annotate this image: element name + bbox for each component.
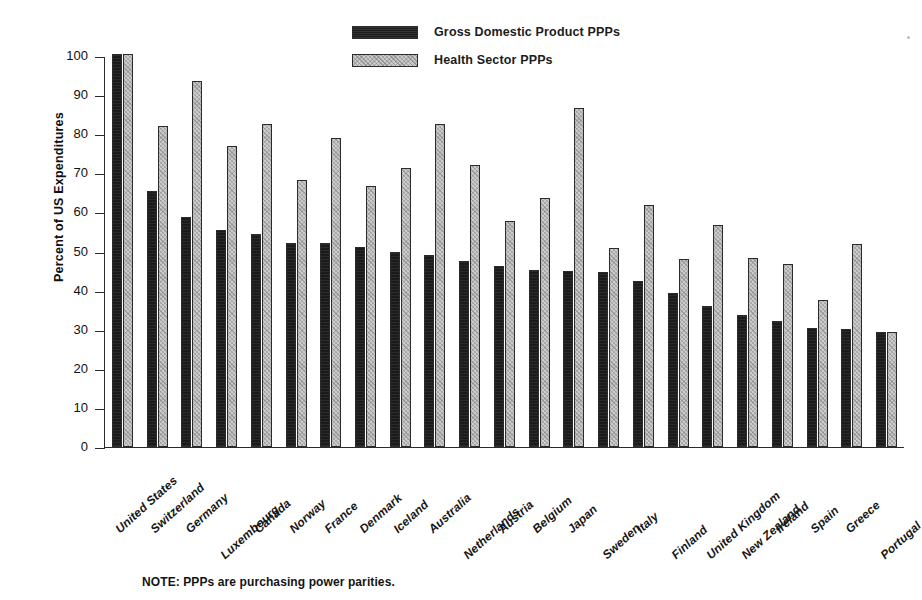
- bar-gdp: [668, 293, 678, 447]
- y-tick-80: 80: [95, 135, 104, 136]
- x-axis-label: Greece: [843, 498, 883, 536]
- bar-group: [730, 56, 765, 447]
- bar-health: [297, 180, 307, 447]
- bar-health: [748, 258, 758, 447]
- bar-group: [383, 56, 418, 447]
- y-tick-90: 90: [95, 96, 104, 97]
- y-tick-label: 100: [66, 48, 88, 63]
- bar-group: [209, 56, 244, 447]
- y-tick-label: 30: [74, 322, 88, 337]
- bar-health: [679, 259, 689, 447]
- bar-gdp: [529, 270, 539, 447]
- bar-gdp: [841, 329, 851, 447]
- bar-group: [313, 56, 348, 447]
- bar-gdp: [494, 266, 504, 447]
- bar-health: [818, 300, 828, 447]
- bar-health: [852, 244, 862, 447]
- bar-gdp: [424, 255, 434, 447]
- bar-gdp: [702, 306, 712, 447]
- bar-group: [244, 56, 279, 447]
- bar-health: [540, 198, 550, 447]
- bar-gdp: [598, 272, 608, 447]
- bar-health: [505, 221, 515, 447]
- x-axis-label: Portugal: [877, 518, 922, 562]
- bar-health: [401, 168, 411, 447]
- bar-gdp: [147, 191, 157, 447]
- x-axis-labels: United StatesSwitzerlandGermanyLuxembour…: [104, 452, 904, 562]
- y-tick-40: 40: [95, 292, 104, 293]
- bar-gdp: [772, 321, 782, 447]
- bar-group: [626, 56, 661, 447]
- bar-group: [661, 56, 696, 447]
- bar-health: [366, 186, 376, 447]
- bar-gdp: [320, 243, 330, 447]
- bar-group: [140, 56, 175, 447]
- bar-group: [105, 56, 140, 447]
- bar-health: [713, 225, 723, 447]
- x-axis-label: Australia: [426, 491, 474, 536]
- bar-groups: [105, 56, 904, 447]
- chart-note: NOTE: PPPs are purchasing power parities…: [142, 575, 395, 589]
- bar-health: [158, 126, 168, 447]
- y-tick-label: 20: [74, 361, 88, 376]
- bar-gdp: [807, 328, 817, 447]
- bar-health: [644, 205, 654, 447]
- bar-gdp: [737, 315, 747, 447]
- bar-health: [123, 54, 133, 447]
- legend-label-gdp: Gross Domestic Product PPPs: [434, 25, 620, 39]
- scan-speck: [907, 36, 910, 39]
- bar-group: [591, 56, 626, 447]
- bar-group: [279, 56, 314, 447]
- y-tick-20: 20: [95, 370, 104, 371]
- bar-health: [262, 124, 272, 447]
- bar-group: [452, 56, 487, 447]
- bar-group: [695, 56, 730, 447]
- y-tick-0: 0: [95, 448, 104, 449]
- y-tick-label: 90: [74, 87, 88, 102]
- bar-gdp: [251, 234, 261, 447]
- bar-gdp: [216, 230, 226, 447]
- bar-health: [227, 146, 237, 447]
- x-axis-label: Spain: [808, 503, 842, 536]
- y-tick-50: 50: [95, 253, 104, 254]
- chart-figure: Gross Domestic Product PPPs Health Secto…: [0, 0, 922, 600]
- bar-health: [192, 81, 202, 447]
- bar-group: [869, 56, 904, 447]
- bar-health: [574, 108, 584, 447]
- y-tick-label: 60: [74, 204, 88, 219]
- bar-health: [783, 264, 793, 447]
- y-tick-10: 10: [95, 409, 104, 410]
- y-tick-label: 0: [81, 439, 88, 454]
- bar-health: [887, 332, 897, 447]
- bar-gdp: [876, 332, 886, 447]
- bar-group: [174, 56, 209, 447]
- bar-gdp: [459, 261, 469, 448]
- bar-health: [470, 165, 480, 447]
- bar-gdp: [286, 243, 296, 447]
- y-tick-label: 40: [74, 283, 88, 298]
- bar-group: [522, 56, 557, 447]
- y-tick-60: 60: [95, 213, 104, 214]
- bar-health: [435, 124, 445, 447]
- bar-gdp: [355, 247, 365, 447]
- bar-group: [418, 56, 453, 447]
- bar-group: [557, 56, 592, 447]
- legend-item-gdp: Gross Domestic Product PPPs: [352, 18, 752, 46]
- bar-group: [800, 56, 835, 447]
- y-tick-100: 100: [95, 57, 104, 58]
- x-axis-label: Norway: [287, 496, 329, 536]
- plot-area: 1009080706050403020100: [104, 57, 904, 448]
- y-tick-label: 10: [74, 400, 88, 415]
- bar-gdp: [390, 252, 400, 447]
- y-tick-70: 70: [95, 174, 104, 175]
- bar-gdp: [181, 217, 191, 447]
- legend-swatch-gdp-icon: [352, 26, 418, 39]
- bar-health: [331, 138, 341, 447]
- y-tick-label: 70: [74, 165, 88, 180]
- bar-group: [834, 56, 869, 447]
- bar-gdp: [112, 54, 122, 447]
- x-axis-label: Finland: [669, 523, 711, 562]
- y-axis-title: Percent of US Expenditures: [52, 72, 66, 322]
- y-tick-30: 30: [95, 331, 104, 332]
- y-tick-label: 80: [74, 126, 88, 141]
